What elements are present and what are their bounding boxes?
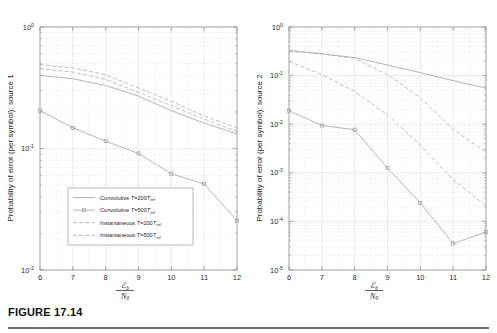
y-axis-title-right: Probability of error (per symbol): sourc… [255, 74, 264, 222]
y-tick-label: 10-2 [21, 265, 34, 275]
x-tick-label: 6 [38, 273, 42, 282]
y-tick-label: 10-4 [270, 216, 283, 226]
x-axis-numerator-right: ℰb [370, 281, 378, 291]
chart-panel-source-2: 10010-110-210-310-410-56789101112 Probab… [249, 0, 497, 300]
x-axis-title-right: ℰb N0 [365, 281, 383, 300]
x-axis-title-left: ℰb N0 [116, 281, 134, 300]
x-tick-label: 12 [482, 273, 490, 282]
legend-left: Convolutive T=200TrefConvolutive T=500Tr… [68, 188, 193, 245]
chart-svg-left: 10010-110-26789101112 Convolutive T=200T… [0, 0, 248, 300]
x-tick-label: 6 [287, 273, 291, 282]
x-tick-label: 7 [320, 273, 324, 282]
chart-panel-source-1: 10010-110-26789101112 Convolutive T=200T… [0, 0, 248, 300]
figure-caption-area: FIGURE 17.14 [0, 300, 497, 333]
chart-svg-right: 10010-110-210-310-410-56789101112 Probab… [249, 0, 497, 300]
y-tick-label: 10-2 [270, 119, 283, 129]
y-tick-label: 100 [23, 22, 34, 32]
x-axis-denominator-right: N0 [369, 292, 378, 301]
y-tick-label: 10-3 [270, 167, 283, 177]
x-tick-label: 11 [449, 273, 457, 282]
x-tick-label: 9 [136, 273, 140, 282]
x-tick-label: 10 [416, 273, 424, 282]
y-tick-label: 100 [272, 22, 283, 32]
x-tick-label: 12 [233, 273, 241, 282]
caption-divider [8, 327, 489, 329]
y-tick-label: 10-5 [270, 265, 283, 275]
x-tick-label: 8 [353, 273, 357, 282]
tick-labels-right: 10010-110-210-310-410-56789101112 [270, 22, 490, 282]
figure-number-label: FIGURE 17.14 [8, 306, 83, 318]
gridlines-right [289, 27, 486, 270]
y-tick-label: 10-1 [21, 143, 34, 153]
x-axis-denominator-left: N0 [120, 292, 129, 301]
x-tick-label: 7 [71, 273, 75, 282]
x-tick-label: 10 [167, 273, 175, 282]
x-tick-label: 9 [385, 273, 389, 282]
x-tick-label: 8 [104, 273, 108, 282]
x-tick-label: 11 [200, 273, 208, 282]
x-axis-numerator-left: ℰb [121, 281, 129, 291]
y-axis-title-left: Probability of error (per symbol): sourc… [6, 74, 15, 222]
figure-container: 10010-110-26789101112 Convolutive T=200T… [0, 0, 497, 333]
y-tick-label: 10-1 [270, 70, 283, 80]
